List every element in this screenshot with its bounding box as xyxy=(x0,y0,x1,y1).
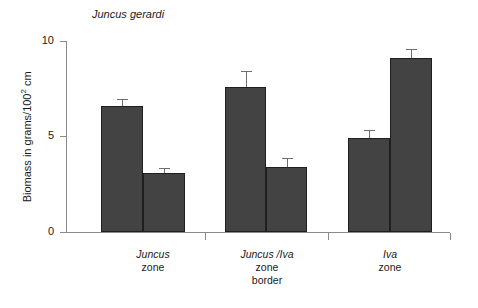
error-bar-cap xyxy=(241,71,252,72)
error-bar-cap xyxy=(406,49,417,50)
x-tick-end xyxy=(450,233,451,240)
error-bar-stem xyxy=(369,130,370,139)
group-label-juncus-zone: Juncus zone xyxy=(113,248,193,274)
y-axis-title-main: Biomass in grams/100 xyxy=(21,94,33,203)
error-bar-stem xyxy=(411,49,412,59)
y-axis-line xyxy=(66,41,67,233)
y-axis-title: Biomass in grams/1002 cm xyxy=(19,37,33,237)
x-tick-separator-1 xyxy=(205,233,206,240)
bar xyxy=(225,87,266,232)
bar xyxy=(143,173,185,232)
group-label-line3-1: border xyxy=(224,274,310,287)
error-bar-cap xyxy=(364,130,375,131)
chart-figure: Juncus gerardi 10 5 0 Biomass in grams/1… xyxy=(0,0,478,308)
y-tick-10: 10 xyxy=(0,41,66,42)
bar xyxy=(101,106,143,232)
x-tick-separator-2 xyxy=(328,233,329,240)
y-tick-0: 0 xyxy=(0,232,66,233)
bar xyxy=(348,138,390,232)
x-axis-line xyxy=(66,232,450,233)
y-axis-title-tail: cm xyxy=(21,71,33,89)
plot-area: 10 5 0 Biomass in grams/1002 cm Juncus z… xyxy=(0,0,478,308)
error-bar-cap xyxy=(282,158,293,159)
group-label-species-2: Iva xyxy=(350,248,430,261)
error-bar-stem xyxy=(122,99,123,106)
group-label-species-0: Juncus xyxy=(113,248,193,261)
bar xyxy=(390,58,432,232)
group-label-iva-zone: Iva zone xyxy=(350,248,430,274)
error-bar-cap xyxy=(159,168,170,169)
group-label-line2-0: zone xyxy=(113,261,193,274)
error-bar-stem xyxy=(287,158,288,167)
group-label-juncus-iva-border: Juncus /Iva zone border xyxy=(224,248,310,287)
bar xyxy=(266,167,307,232)
y-axis-title-exponent: 2 xyxy=(19,89,28,93)
y-tick-5: 5 xyxy=(0,136,66,137)
group-label-species-1: Juncus /Iva xyxy=(224,248,310,261)
error-bar-cap xyxy=(117,99,128,100)
group-label-line2-2: zone xyxy=(350,261,430,274)
error-bar-stem xyxy=(246,71,247,87)
group-label-line2-1: zone xyxy=(224,261,310,274)
